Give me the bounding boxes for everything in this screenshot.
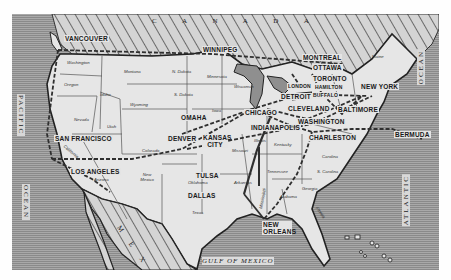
- state-washington: Washington: [67, 60, 90, 65]
- state-oregon: Oregon: [64, 82, 78, 87]
- city-detroit: DETROIT: [280, 93, 312, 100]
- state-kentucky: Kentucky: [274, 142, 292, 147]
- state-iowa: Iowa: [212, 108, 221, 113]
- state-maine: Maine: [372, 54, 384, 59]
- state-arkansas: Arkansas: [234, 180, 252, 185]
- state-texas: Texas: [192, 210, 203, 215]
- route-map: C A N A D A PACIFIC OCEAN OCEAN ATLANTIC…: [12, 14, 439, 270]
- city-new-orleans: NEW ORLEANS: [262, 221, 292, 235]
- label-gulf: GULF OF MEXICO: [202, 257, 274, 265]
- caribbean-islands: [345, 235, 392, 262]
- state-s-dakota: S. Dakota: [174, 92, 193, 97]
- city-baltimore: BALTIMORE: [337, 106, 379, 113]
- state-missouri: Missouri: [232, 148, 248, 153]
- state-minnesota: Minnesota: [207, 74, 227, 79]
- city-london: LONDON: [287, 83, 312, 90]
- city-new-york: NEW YORK: [360, 83, 399, 90]
- city-charleston: CHARLESTON: [308, 134, 357, 141]
- state-oklahoma: Oklahoma: [188, 180, 208, 185]
- state-wyoming: Wyoming: [130, 102, 148, 107]
- city-chicago: CHICAGO: [244, 109, 278, 116]
- label-canada: C A N A D A: [152, 17, 321, 25]
- city-san-francisco: SAN FRANCISCO: [54, 135, 113, 142]
- state-tennessee: Tennessee: [267, 169, 288, 174]
- state-utah: Utah: [107, 124, 116, 129]
- state-colorado: Colorado: [142, 148, 159, 153]
- state-n-dakota: N. Dakota: [172, 69, 191, 74]
- state-wisconsin: Wisconsin: [234, 84, 254, 89]
- state-georgia: Georgia: [302, 186, 317, 191]
- state-carolina: Carolina: [322, 154, 338, 159]
- state-montana: Montana: [124, 69, 141, 74]
- state-idaho: Idaho: [100, 92, 111, 97]
- city-washington: WASHINGTON: [297, 118, 346, 125]
- city-vancouver: VANCOUVER: [64, 35, 109, 42]
- city-kansas-city: KANSAS CITY: [202, 134, 228, 148]
- city-dallas: DALLAS: [187, 192, 217, 199]
- city-ottawa: OTTAWA: [312, 64, 343, 71]
- city-winnipeg: WINNIPEG: [202, 46, 238, 53]
- state-new-mexico: New Mexico: [137, 172, 157, 182]
- city-cleveland: CLEVELAND: [287, 105, 331, 112]
- state-illinois: Illinois: [254, 138, 266, 143]
- city-omaha: OMAHA: [180, 114, 208, 121]
- state-s-carolina: S. Carolina: [317, 169, 338, 174]
- state-nevada: Nevada: [74, 117, 89, 122]
- city-tulsa: TULSA: [195, 172, 220, 179]
- state-alabama: Alabama: [280, 194, 297, 199]
- city-denver: DENVER: [167, 135, 197, 142]
- label-pacific-ocean: OCEAN: [22, 184, 30, 220]
- label-atlantic: ATLANTIC: [402, 174, 410, 226]
- city-los-angeles: LOS ANGELES: [70, 168, 121, 175]
- city-toronto: TORONTO: [312, 75, 348, 82]
- city-montreal: MONTREAL: [302, 54, 342, 61]
- city-buffalo: BUFFALO: [312, 92, 339, 99]
- city-bermuda: BERMUDA: [394, 131, 431, 138]
- state-arizona: Arizona: [94, 177, 109, 182]
- label-pacific: PACIFIC: [17, 94, 25, 136]
- city-hamilton: HAMILTON: [314, 84, 344, 91]
- state-ohio: Ohio: [288, 124, 297, 129]
- label-atlantic-ocean: OCEAN: [417, 49, 425, 85]
